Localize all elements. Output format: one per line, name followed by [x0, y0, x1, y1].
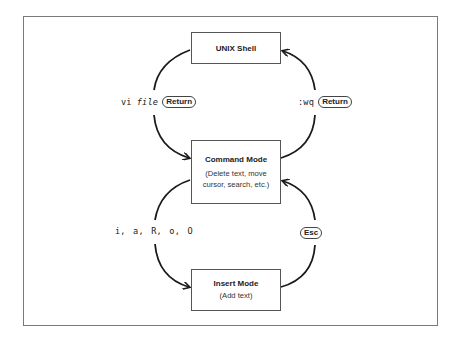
arrow-command-to-shell-bottom — [281, 115, 315, 158]
return-key-badge: Return — [318, 96, 352, 108]
node-subtitle: (Delete text, move — [205, 168, 267, 179]
arrow-insert-to-command — [283, 181, 315, 220]
node-title: UNIX Shell — [216, 44, 256, 53]
node-subtitle: cursor, search, etc.) — [203, 179, 270, 190]
label-shell-to-command: vi file Return — [121, 96, 196, 108]
command-text: i, a, R, o, O — [115, 226, 193, 236]
node-insert-mode: Insert Mode (Add text) — [191, 269, 281, 311]
command-text: :wq — [298, 97, 314, 107]
node-unix-shell: UNIX Shell — [191, 32, 281, 64]
node-title: Command Mode — [205, 155, 267, 164]
arrow-command-to-insert-top — [155, 180, 190, 220]
node-subtitle: (Add text) — [220, 290, 253, 301]
return-key-badge: Return — [162, 96, 196, 108]
label-insert-to-command: Esc — [300, 227, 322, 239]
arrow-command-to-shell — [283, 51, 315, 90]
arrow-command-to-insert — [155, 244, 189, 287]
esc-key-badge: Esc — [300, 227, 322, 239]
arrow-insert-to-command-bottom — [281, 245, 315, 287]
arrow-shell-to-command-top — [154, 50, 190, 90]
argument-text: file — [137, 97, 159, 107]
node-title: Insert Mode — [214, 279, 259, 288]
command-text: vi — [121, 97, 132, 107]
label-command-to-shell: :wq Return — [298, 96, 352, 108]
arrow-shell-to-command — [154, 115, 189, 158]
label-command-to-insert: i, a, R, o, O — [115, 226, 193, 236]
node-command-mode: Command Mode (Delete text, move cursor, … — [191, 140, 281, 204]
